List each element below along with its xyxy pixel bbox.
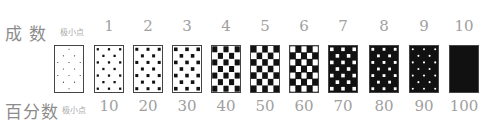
swatch-small-black-dots [94,45,124,93]
swatch-tiny-dots [54,45,84,93]
swatch-larger-black-squares [172,45,202,93]
grade-value: 7 [328,17,358,35]
grade-value: 1 [94,17,124,35]
percent-value: 60 [289,97,319,115]
percent-row-label: 百分数 [5,98,59,123]
grade-value: 3 [172,17,202,35]
swatch-solid-black [449,45,479,93]
swatch-medium-black-squares [133,45,163,93]
percent-value: 40 [211,97,241,115]
grade-value: 8 [369,17,399,35]
grade-value: 6 [289,17,319,35]
percent-value: 30 [172,97,202,115]
percent-value: 50 [250,97,280,115]
swatch-near-checker-white [289,45,319,93]
grade-value: 2 [133,17,163,35]
grade-value: 5 [250,17,280,35]
percent-value: 10 [94,97,124,115]
percent-value: 100 [449,97,479,115]
swatch-medium-white-squares [369,45,399,93]
grade-value: 10 [449,17,479,35]
grade-value: 9 [409,17,439,35]
percent-value: 70 [328,97,358,115]
percent-value: 80 [369,97,399,115]
grade-value: 4 [211,17,241,35]
swatch-small-white-dots [409,45,439,93]
grade-row-label: 成 数 [5,20,47,45]
percent-value: 90 [409,97,439,115]
percent-value: 20 [133,97,163,115]
grade-minimal-dot-label: 极小点 [60,26,84,37]
swatch-checkerboard [250,45,280,93]
swatch-larger-white-squares [328,45,358,93]
percent-minimal-dot-label: 极小点 [62,104,86,115]
swatch-near-checker-black [211,45,241,93]
